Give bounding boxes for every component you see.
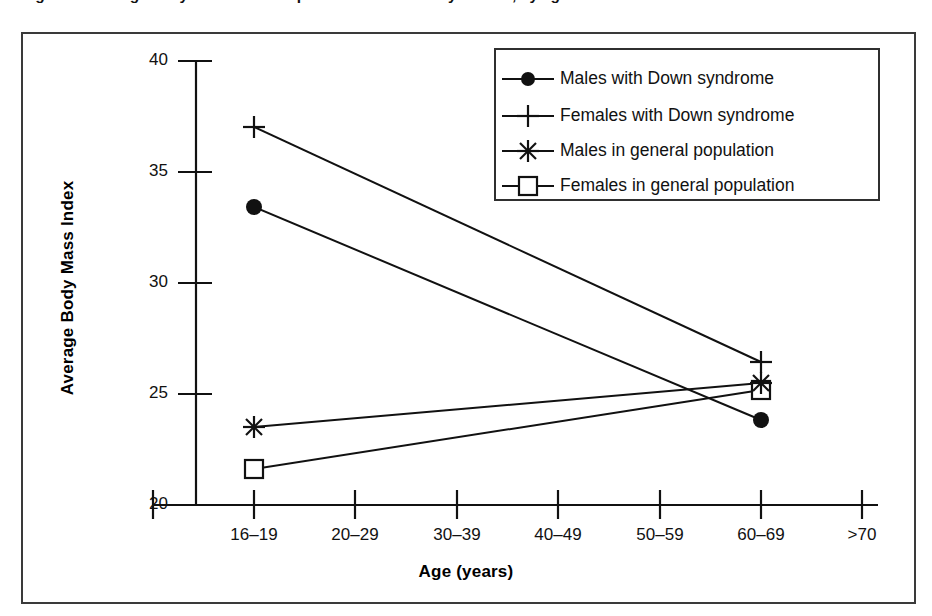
chart-legend: Males with Down syndrome Females with Do… [494, 48, 880, 201]
plus-icon [496, 101, 560, 131]
legend-item-females-general-population: Females in general population [496, 167, 878, 204]
series-line-males-general-population [254, 383, 761, 427]
marker-square-females-general-16-19 [245, 460, 263, 478]
marker-circle-males-down-16-19 [246, 199, 262, 215]
marker-plus-females-down-60-69 [750, 351, 772, 373]
marker-plus-females-down-16-19 [243, 116, 265, 138]
y-tick-label-30: 30 [116, 272, 168, 292]
legend-item-males-general-population: Males in general population [496, 132, 878, 169]
marker-asterisk-males-general-16-19 [243, 416, 265, 438]
x-tick-label-over-70: >70 [807, 525, 917, 545]
filled-circle-icon [496, 64, 560, 94]
legend-label-females-general-population: Females in general population [560, 175, 794, 196]
legend-item-males-down-syndrome: Males with Down syndrome [496, 60, 878, 97]
legend-item-females-down-syndrome: Females with Down syndrome [496, 97, 878, 134]
marker-asterisk-males-general-60-69 [750, 372, 772, 394]
open-square-icon [496, 171, 560, 201]
x-tick-label-16-19: 16–19 [199, 525, 309, 545]
series-line-females-general-population [254, 390, 761, 469]
y-tick-label-40: 40 [116, 50, 168, 70]
y-tick-label-20: 20 [116, 494, 168, 514]
x-tick-label-20-29: 20–29 [300, 525, 410, 545]
x-tick-label-60-69: 60–69 [706, 525, 816, 545]
y-axis-title: Average Body Mass Index [58, 123, 78, 453]
legend-label-females-down-syndrome: Females with Down syndrome [560, 105, 794, 126]
x-axis-title: Age (years) [0, 562, 932, 582]
legend-label-males-down-syndrome: Males with Down syndrome [560, 68, 774, 89]
y-tick-label-25: 25 [116, 383, 168, 403]
marker-circle-males-down-60-69 [753, 412, 769, 428]
series-line-males-down-syndrome [254, 207, 761, 420]
x-tick-label-40-49: 40–49 [503, 525, 613, 545]
x-tick-label-30-39: 30–39 [402, 525, 512, 545]
legend-label-males-general-population: Males in general population [560, 140, 774, 161]
x-tick-label-50-59: 50–59 [605, 525, 715, 545]
y-tick-label-35: 35 [116, 161, 168, 181]
asterisk-icon [496, 136, 560, 166]
